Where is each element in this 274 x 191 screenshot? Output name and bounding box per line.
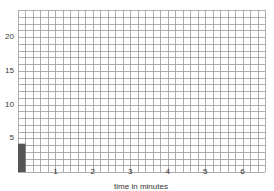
y-tick-label: 15: [0, 67, 14, 75]
x-axis-label: time in minutes: [91, 182, 191, 191]
x-tick-label: 3: [124, 168, 136, 176]
x-tick-label: 2: [87, 168, 99, 176]
y-tick-label: 5: [0, 134, 14, 142]
y-tick-label: 20: [0, 33, 14, 41]
bar: [18, 144, 25, 172]
x-tick-label: 4: [162, 168, 174, 176]
x-tick-label: 6: [237, 168, 249, 176]
grid-lines: [18, 10, 266, 173]
chart-plot: [0, 0, 274, 191]
x-tick-label: 1: [49, 168, 61, 176]
y-tick-label: 10: [0, 101, 14, 109]
x-tick-label: 5: [199, 168, 211, 176]
bars: [18, 144, 25, 172]
